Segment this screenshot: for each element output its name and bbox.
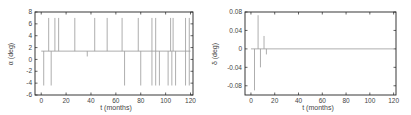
x-tick-label: 80 — [137, 97, 145, 104]
x-tick-label: 100 — [364, 97, 375, 104]
y-tick-label: 6 — [28, 20, 32, 27]
y-tick-label: 4 — [28, 32, 32, 39]
x-axis-label: t (months) — [100, 104, 132, 112]
x-tick-label: 40 — [295, 97, 303, 104]
x-tick-label: 100 — [160, 97, 171, 104]
alpha-series — [41, 18, 190, 86]
x-axis-ticks: 020406080100120 — [249, 12, 399, 104]
delta-series — [251, 15, 394, 90]
y-tick-label: 0 — [28, 56, 32, 63]
x-tick-label: 120 — [185, 97, 196, 104]
y-axis-label: δ (deg) — [211, 43, 219, 65]
y-tick-label: 8 — [28, 8, 32, 15]
y-tick-label: -4 — [26, 79, 32, 86]
x-tick-label: 120 — [388, 97, 399, 104]
y-tick-label: 0.04 — [229, 27, 242, 34]
delta-plot: -0.08-0.0400.040.08 020406080100120 δ (d… — [211, 8, 399, 112]
x-tick-label: 40 — [87, 97, 95, 104]
y-tick-label: -0.08 — [227, 82, 242, 89]
x-tick-label: 0 — [39, 97, 43, 104]
x-tick-label: 60 — [319, 97, 327, 104]
x-tick-label: 60 — [112, 97, 120, 104]
x-tick-label: 20 — [271, 97, 279, 104]
y-axis-label: α (deg) — [7, 43, 15, 65]
x-tick-label: 20 — [62, 97, 70, 104]
y-tick-label: -6 — [26, 91, 32, 98]
y-tick-label: -0.04 — [227, 64, 242, 71]
y-tick-label: -2 — [26, 67, 32, 74]
y-tick-label: 2 — [28, 44, 32, 51]
y-tick-label: 0.08 — [229, 8, 242, 15]
x-tick-label: 80 — [342, 97, 350, 104]
x-axis-label: t (months) — [302, 104, 334, 112]
figure: -6-4-202468 020406080100120 α (deg) t (m… — [0, 0, 411, 115]
x-tick-label: 0 — [249, 97, 253, 104]
y-tick-label: 0 — [238, 45, 242, 52]
plot-frame — [245, 12, 396, 95]
alpha-plot: -6-4-202468 020406080100120 α (deg) t (m… — [7, 8, 196, 112]
